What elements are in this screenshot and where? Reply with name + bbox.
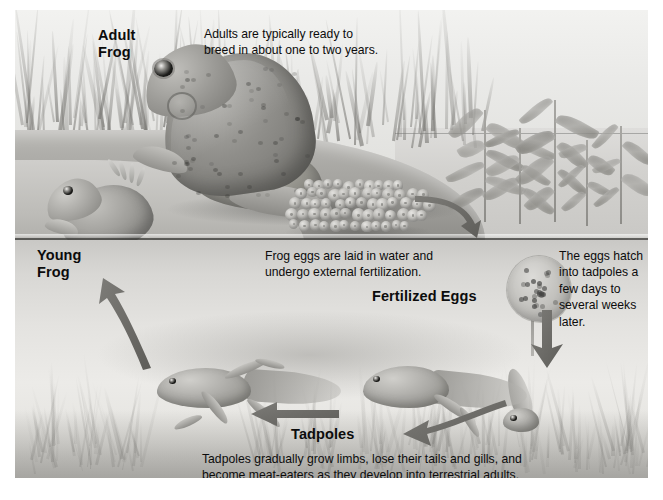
egg-embryo-dot bbox=[524, 268, 529, 273]
caption-eggs-line2: undergo external fertilization. bbox=[265, 264, 500, 280]
egg-embryo-dot bbox=[532, 294, 537, 299]
adult-frog-spot bbox=[263, 119, 268, 123]
adult-frog-spot bbox=[200, 105, 205, 109]
frog-egg bbox=[373, 208, 385, 220]
caption-hatch-line5: later. bbox=[559, 314, 647, 330]
caption-tadpoles-line1: Tadpoles gradually grow limbs, lose thei… bbox=[202, 451, 532, 467]
label-young-frog: Young Frog bbox=[37, 247, 82, 281]
egg-embryo-dot bbox=[534, 303, 539, 308]
tadpole-mid-stage bbox=[357, 362, 527, 440]
egg-mass bbox=[285, 178, 425, 238]
frog-egg bbox=[412, 199, 423, 210]
tadpole-late-eye bbox=[169, 378, 176, 384]
adult-frog-spot bbox=[192, 138, 197, 142]
frog-egg bbox=[340, 208, 351, 219]
tadpole-mid-body bbox=[363, 366, 449, 408]
label-tadpoles: Tadpoles bbox=[291, 426, 354, 443]
young-frog-eye bbox=[63, 186, 73, 195]
egg-embryo-dot bbox=[537, 281, 542, 286]
caption-tadpoles: Tadpoles gradually grow limbs, lose thei… bbox=[202, 451, 532, 478]
caption-hatch-line2: into tadpoles a bbox=[559, 264, 647, 280]
adult-frog-spot bbox=[238, 172, 243, 176]
adult-frog-spot bbox=[196, 191, 201, 195]
adult-frog-spot bbox=[284, 112, 289, 116]
frog-egg bbox=[319, 221, 329, 231]
caption-hatch-line1: The eggs hatch bbox=[559, 248, 647, 264]
tadpole-mid-eye bbox=[373, 376, 380, 382]
label-fertilized-eggs: Fertilized Eggs bbox=[372, 288, 477, 305]
adult-frog-spot bbox=[265, 193, 270, 197]
adult-frog-spot bbox=[295, 117, 300, 121]
adult-frog-spot bbox=[274, 159, 279, 163]
frog-life-cycle-illustration: Adult Frog Adults are typically ready to… bbox=[15, 10, 648, 478]
adult-frog-spot bbox=[305, 154, 310, 158]
adult-frog-spot bbox=[214, 134, 219, 138]
adult-frog-spot bbox=[190, 159, 195, 163]
frog-egg bbox=[416, 210, 427, 221]
adult-frog-spot bbox=[180, 85, 185, 89]
underwater-grass-blade bbox=[546, 432, 550, 467]
frog-egg bbox=[400, 221, 410, 231]
adult-frog-spot bbox=[238, 130, 243, 134]
adult-frog-spot bbox=[300, 120, 305, 124]
adult-frog-spot bbox=[281, 172, 286, 176]
frog-egg bbox=[356, 197, 367, 208]
label-adult-frog-line2: Frog bbox=[98, 44, 136, 61]
adult-frog-spot bbox=[209, 162, 214, 166]
frog-egg bbox=[323, 179, 333, 189]
egg-embryo-dot bbox=[525, 282, 530, 287]
egg-clump-stalk bbox=[531, 316, 534, 356]
frog-egg bbox=[371, 188, 382, 199]
egg-embryo-dot bbox=[542, 286, 547, 291]
frog-egg bbox=[308, 208, 321, 221]
caption-eggs-line1: Frog eggs are laid in water and bbox=[265, 248, 500, 264]
adult-frog-spot bbox=[249, 98, 254, 102]
adult-frog-spot bbox=[261, 106, 266, 110]
plant-leaf bbox=[621, 137, 648, 169]
adult-frog-spot bbox=[258, 141, 263, 145]
frog-egg bbox=[381, 221, 391, 231]
frog-egg bbox=[423, 198, 436, 211]
plant-leaf bbox=[519, 95, 554, 128]
aquatic-plant bbox=[599, 126, 643, 224]
tadpole-late-hindfoot bbox=[173, 412, 204, 432]
frog-egg bbox=[339, 220, 349, 230]
caption-adults-line1: Adults are typically ready to bbox=[204, 26, 434, 42]
egg-embryo-dot bbox=[553, 300, 558, 305]
label-young-frog-line2: Frog bbox=[37, 264, 82, 281]
plant-leaf bbox=[445, 158, 485, 186]
egg-embryo-dot bbox=[519, 297, 524, 302]
caption-hatch-line4: several weeks bbox=[559, 297, 647, 313]
adult-frog-spot bbox=[180, 109, 185, 113]
plant-leaf bbox=[620, 169, 648, 201]
label-adult-frog: Adult Frog bbox=[98, 27, 136, 61]
egg-embryo-dot bbox=[538, 312, 543, 317]
frog-egg bbox=[297, 209, 308, 220]
adult-frog-spot bbox=[225, 185, 230, 189]
adult-frog-spot bbox=[263, 67, 268, 71]
adult-frog-spot bbox=[273, 153, 278, 157]
egg-embryo-dot bbox=[539, 293, 544, 298]
caption-hatch: The eggs hatch into tadpoles a few days … bbox=[559, 248, 647, 330]
adult-frog-spot bbox=[279, 137, 284, 141]
adult-frog-spot bbox=[227, 104, 232, 108]
adult-frog-spot bbox=[206, 73, 211, 77]
plant-leaf bbox=[446, 183, 485, 215]
plant-leaf bbox=[456, 136, 487, 162]
adult-frog-spot bbox=[232, 139, 237, 143]
egg-embryo-dot bbox=[540, 304, 545, 309]
label-adult-frog-line1: Adult bbox=[98, 27, 136, 44]
frog-egg bbox=[371, 221, 382, 232]
frog-egg bbox=[299, 220, 311, 232]
tadpole-mid-hindfoot bbox=[458, 405, 483, 438]
adult-frog-spot bbox=[184, 135, 189, 139]
frog-egg bbox=[387, 197, 398, 208]
adult-frog-spot bbox=[292, 72, 297, 76]
plant-leaf bbox=[447, 104, 483, 143]
plant-leaf bbox=[561, 189, 586, 214]
plant-stem bbox=[620, 126, 622, 224]
adult-frog-spot bbox=[191, 78, 196, 82]
caption-tadpoles-line2: become meat-eaters as they develop into … bbox=[202, 467, 532, 478]
adult-frog-spot bbox=[184, 70, 189, 74]
adult-frog-spot bbox=[256, 193, 261, 197]
